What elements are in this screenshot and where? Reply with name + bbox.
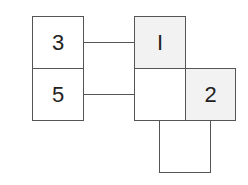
box-3: 3: [32, 16, 84, 69]
box-5-label: 5: [52, 82, 64, 108]
connector-3-to-1: [84, 42, 134, 43]
connector-5-to-middle: [84, 94, 134, 95]
box-2-label: 2: [204, 82, 216, 108]
box-2: 2: [185, 68, 236, 121]
box-1-label: I: [157, 30, 163, 56]
box-3-label: 3: [52, 30, 64, 56]
box-empty-bottom: [159, 120, 211, 173]
box-5: 5: [32, 68, 84, 121]
box-empty-middle: [134, 68, 186, 121]
box-1: I: [134, 16, 186, 69]
